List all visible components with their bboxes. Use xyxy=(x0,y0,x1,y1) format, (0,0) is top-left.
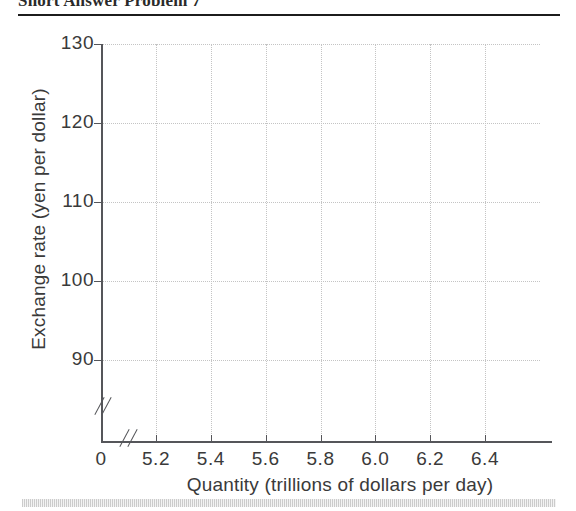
chart-plot-area xyxy=(102,44,540,442)
gridline-vertical xyxy=(156,44,157,442)
x-tick-mark xyxy=(211,435,212,443)
gridline-vertical xyxy=(375,44,376,442)
x-tick-mark xyxy=(430,435,431,443)
y-axis-tick-labels: 13012011010090 xyxy=(44,0,94,511)
x-tick-mark xyxy=(321,435,322,443)
y-tick-label: 110 xyxy=(50,190,94,212)
x-axis-title: Quantity (trillions of dollars per day) xyxy=(120,474,560,496)
gridline-vertical xyxy=(430,44,431,442)
page-footer-band xyxy=(22,499,556,507)
y-tick-label: 130 xyxy=(50,32,94,54)
x-tick-label: 5.8 xyxy=(291,448,351,470)
worksheet-page: Short Answer Problem 7 13012011010090 05… xyxy=(0,0,576,511)
x-tick-label: 5.2 xyxy=(126,448,186,470)
y-tick-label: 120 xyxy=(50,111,94,133)
x-tick-label: 5.4 xyxy=(181,448,241,470)
gridline-vertical xyxy=(211,44,212,442)
y-tick-label: 100 xyxy=(50,269,94,291)
y-axis-line xyxy=(101,44,103,443)
y-tick-mark xyxy=(94,202,102,203)
x-tick-mark xyxy=(375,435,376,443)
x-tick-label: 6.2 xyxy=(400,448,460,470)
x-tick-mark xyxy=(266,435,267,443)
y-axis-break-icon xyxy=(95,396,111,420)
x-tick-mark xyxy=(485,435,486,443)
gridline-vertical xyxy=(266,44,267,442)
y-tick-mark xyxy=(94,281,102,282)
y-tick-mark xyxy=(94,123,102,124)
y-tick-mark xyxy=(94,360,102,361)
header-divider xyxy=(18,14,560,16)
x-tick-label: 6.0 xyxy=(345,448,405,470)
x-tick-mark xyxy=(156,435,157,443)
gridline-vertical xyxy=(485,44,486,442)
y-tick-mark xyxy=(94,44,102,45)
x-axis-break-icon xyxy=(120,428,142,450)
x-tick-label: 6.4 xyxy=(455,448,515,470)
y-tick-label: 90 xyxy=(50,348,94,370)
y-axis-title: Exchange rate (yen per dollar) xyxy=(28,49,50,389)
gridline-vertical xyxy=(321,44,322,442)
x-tick-label: 5.6 xyxy=(236,448,296,470)
x-tick-label-origin: 0 xyxy=(71,448,131,470)
